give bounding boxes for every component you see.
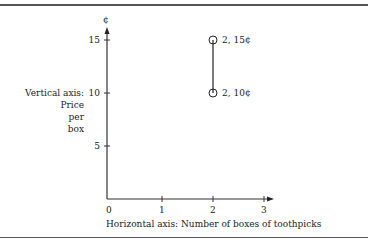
x-tick-label-2: 2 (210, 205, 216, 216)
x-axis-arrow-icon (267, 197, 274, 202)
y-tick-label-15: 15 (80, 35, 100, 46)
y-axis-arrow-icon (105, 27, 110, 34)
y-unit-label: ¢ (103, 15, 109, 26)
point-label-2-15: 2, 15¢ (222, 35, 251, 46)
y-axis-title-line3: per (10, 112, 84, 123)
y-axis-title-line2: Price (10, 100, 84, 111)
y-axis-title-line4: box (10, 124, 84, 135)
x-tick-label-0: 0 (106, 205, 112, 216)
x-axis-title: Horizontal axis: Number of boxes of toot… (106, 219, 321, 230)
y-tick-label-5: 5 (80, 141, 100, 152)
x-tick-label-3: 3 (261, 205, 267, 216)
x-tick-label-1: 1 (159, 205, 165, 216)
point-label-2-10: 2, 10¢ (222, 88, 251, 99)
y-axis-title-line1: Vertical axis: (10, 88, 84, 99)
